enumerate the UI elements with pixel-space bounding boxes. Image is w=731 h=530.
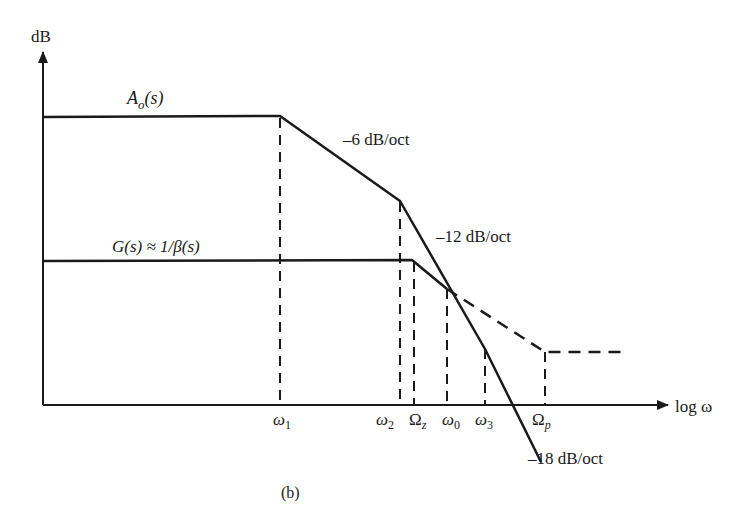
figure-caption: (b) — [281, 484, 300, 502]
feedback-gain-dashed-extension — [447, 289, 625, 352]
tick-omega-2: ω2 — [376, 410, 394, 432]
tick-labels: ω1 ω2 Ωz ω0 ω3 Ωp — [273, 410, 551, 432]
bode-diagram: dB log ω Ao(s) –6 dB/oct –12 dB/oct –18 … — [0, 0, 731, 530]
tick-omega-3: ω3 — [475, 410, 493, 432]
feedback-label: G(s) ≈ 1/β(s) — [112, 237, 200, 256]
open-loop-label: Ao(s) — [126, 88, 164, 112]
slope-label-6: –6 dB/oct — [342, 130, 410, 149]
y-axis-label: dB — [31, 27, 51, 46]
x-axis-label: log ω — [675, 397, 712, 416]
feedback-gain-curve — [43, 260, 447, 289]
tick-omega-z: Ωz — [409, 410, 427, 432]
tick-omega-p: Ωp — [532, 410, 551, 432]
tick-omega-1: ω1 — [273, 410, 291, 432]
slope-label-18: –18 dB/oct — [527, 449, 603, 468]
slope-label-12: –12 dB/oct — [435, 227, 511, 246]
tick-omega-0: ω0 — [442, 410, 460, 432]
open-loop-gain-curve — [43, 116, 541, 462]
